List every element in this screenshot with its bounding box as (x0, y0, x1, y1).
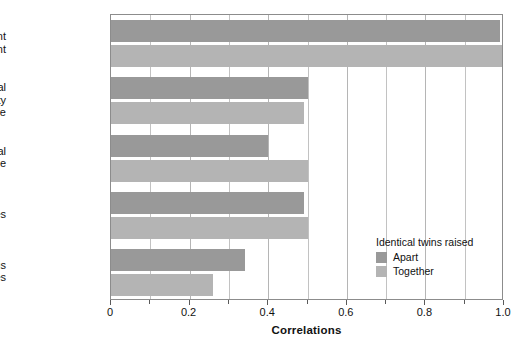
x-tick-mark (149, 300, 150, 304)
x-axis-title: Correlations (110, 324, 503, 336)
legend-item-apart: Apart (376, 251, 473, 263)
bar-apart-2 (111, 135, 268, 157)
bar-together-2 (111, 160, 308, 182)
x-tick-mark (503, 300, 504, 305)
x-tick-mark (189, 300, 190, 305)
legend-item-together: Together (376, 265, 473, 277)
x-tick-mark (110, 300, 111, 305)
legend-swatch-together (376, 266, 387, 277)
category-label: Occupational interest scale (0, 145, 6, 170)
category-label: Multidimensional personality questionnai… (0, 81, 6, 119)
legend-swatch-apart (376, 252, 387, 263)
x-tick-label: 0.6 (326, 306, 366, 318)
x-tick-mark (385, 300, 386, 304)
correlation-bar-chart: Fingerprint ridge countMultidimensional … (0, 0, 525, 348)
category-label: Nonreligious social attitudes (0, 259, 6, 284)
x-tick-mark (267, 300, 268, 305)
bar-together-1 (111, 102, 304, 124)
category-label: Fingerprint ridge count (0, 30, 6, 55)
bar-together-4 (111, 274, 213, 296)
x-tick-label: 0.2 (169, 306, 209, 318)
x-tick-mark (228, 300, 229, 304)
bar-together-0 (111, 45, 503, 67)
bar-apart-4 (111, 249, 245, 271)
x-tick-label: 0 (90, 306, 130, 318)
chart-legend: Identical twins raised Apart Together (376, 236, 473, 277)
bar-apart-0 (111, 20, 500, 42)
x-tick-label: 0.4 (247, 306, 287, 318)
legend-label-together: Together (393, 265, 434, 277)
bar-apart-3 (111, 192, 304, 214)
x-tick-mark (424, 300, 425, 305)
legend-label-apart: Apart (393, 251, 418, 263)
x-tick-mark (464, 300, 465, 304)
category-label: Religious attitudes (0, 208, 6, 221)
x-tick-mark (346, 300, 347, 305)
bar-together-3 (111, 217, 308, 239)
bar-apart-1 (111, 77, 308, 99)
x-tick-label: 0.8 (404, 306, 444, 318)
x-tick-label: 1.0 (483, 306, 523, 318)
legend-title: Identical twins raised (376, 236, 473, 248)
x-tick-mark (307, 300, 308, 304)
